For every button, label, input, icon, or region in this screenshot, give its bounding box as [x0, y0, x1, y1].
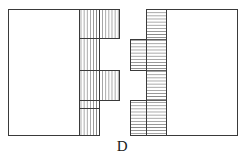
right-member: [130, 9, 237, 135]
left-member: [8, 9, 119, 135]
figure-root: D: [0, 0, 245, 158]
right-member-hatching: [130, 9, 166, 135]
figure-label: D: [0, 136, 245, 156]
joint-drawing: [0, 0, 245, 158]
